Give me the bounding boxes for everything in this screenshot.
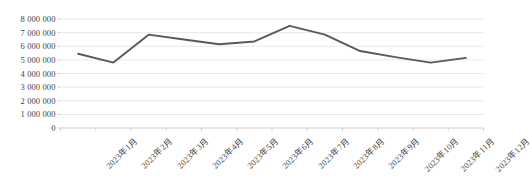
y-axis-tick-label: 7 000 000 (0, 28, 56, 38)
y-axis-tick-label: 1 000 000 (0, 109, 56, 119)
data-series-line (78, 26, 466, 63)
gridlines (61, 19, 484, 128)
y-axis-tick-label: 4 000 000 (0, 69, 56, 79)
x-axis-tick-label: 2023年12月 (492, 134, 532, 174)
y-axis-tick-label: 6 000 000 (0, 41, 56, 51)
y-axis-tick-label: 2 000 000 (0, 96, 56, 106)
y-axis-tick-label: 0 (0, 123, 56, 133)
y-axis-tick-label: 8 000 000 (0, 14, 56, 24)
y-axis-tick-label: 3 000 000 (0, 82, 56, 92)
y-axis-tick-marks (58, 19, 61, 128)
y-axis-tick-label: 5 000 000 (0, 55, 56, 65)
